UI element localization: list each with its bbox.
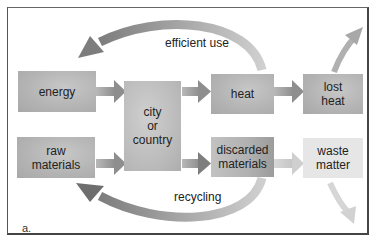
recycling-label: recycling bbox=[174, 190, 221, 204]
efficient-use-label: efficient use bbox=[165, 36, 229, 50]
node-waste-matter: waste matter bbox=[303, 138, 363, 178]
node-lost-heat-line2: heat bbox=[321, 94, 344, 108]
node-city-line2: or bbox=[147, 119, 158, 133]
discarded-to-waste-arrow bbox=[274, 152, 304, 175]
energy-to-city-arrow bbox=[96, 80, 126, 103]
node-heat-label: heat bbox=[231, 87, 254, 101]
heat-to-lost-heat-arrow bbox=[274, 80, 304, 103]
city-to-heat-arrow bbox=[182, 80, 211, 103]
node-energy: energy bbox=[18, 71, 96, 112]
node-energy-label: energy bbox=[39, 85, 76, 99]
raw-to-city-arrow bbox=[96, 152, 126, 175]
node-waste-line1: waste bbox=[317, 144, 348, 158]
node-discarded-line2: materials bbox=[218, 157, 267, 171]
lost-heat-escape-arrow bbox=[334, 27, 363, 72]
node-discarded-line1: discarded bbox=[216, 143, 268, 157]
node-waste-line2: matter bbox=[316, 158, 350, 172]
node-discarded-materials: discarded materials bbox=[211, 137, 274, 177]
node-city-or-country: city or country bbox=[124, 81, 181, 171]
node-lost-heat: lost heat bbox=[303, 74, 363, 114]
node-raw-materials: raw materials bbox=[17, 137, 95, 178]
node-lost-heat-line1: lost bbox=[324, 80, 343, 94]
node-city-line3: country bbox=[133, 133, 172, 147]
node-heat: heat bbox=[211, 74, 274, 114]
recycling-arrow bbox=[76, 178, 262, 217]
node-raw-materials-line2: materials bbox=[32, 158, 81, 172]
city-to-discarded-arrow bbox=[182, 152, 211, 175]
figure-label: a. bbox=[22, 222, 31, 234]
waste-escape-arrow bbox=[330, 183, 356, 224]
node-raw-materials-line1: raw bbox=[46, 144, 65, 158]
node-city-line1: city bbox=[144, 105, 162, 119]
